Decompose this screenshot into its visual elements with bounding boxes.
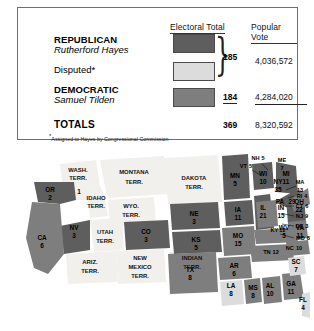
map-label-sc-name: SC xyxy=(292,258,301,265)
map-label-mn-name: MN xyxy=(230,172,240,179)
map-label-nh: NH5 xyxy=(251,155,264,161)
map-label-mi-name: MI xyxy=(282,170,289,177)
map-label-utah-terr-1: UTAH xyxy=(97,229,113,235)
map-label-nm-terr-1: NEW xyxy=(133,255,147,261)
map-label-de: DE3 xyxy=(296,223,309,229)
state-ia xyxy=(224,200,254,226)
column-header-popular-vote: Popular Vote xyxy=(251,22,297,44)
map-label-utah-terr-2: TERR. xyxy=(96,238,114,244)
map-label-vt-name: VT xyxy=(240,163,248,169)
map-label-wi-name: WI xyxy=(259,170,267,177)
map-label-ny-name: NY xyxy=(274,178,284,185)
map-label-ks-name: KS xyxy=(192,236,202,243)
map-label-nj-name: NJ xyxy=(296,213,303,219)
map-label-la-name: LA xyxy=(227,282,236,289)
electoral-value-democratic: 184 xyxy=(223,92,237,104)
electoral-value-republican: 185 xyxy=(223,52,237,62)
map-label-in-name: IN xyxy=(278,204,285,211)
map-label-ky-name: KY xyxy=(270,227,278,233)
map-label-me-votes: 7 xyxy=(280,165,283,171)
map-label-md-votes: 8 xyxy=(307,235,310,241)
popular-value-republican: 4,036,572 xyxy=(255,56,293,66)
map-label-ne-name: NE xyxy=(190,210,200,217)
map-label-la-votes: 8 xyxy=(229,290,233,297)
map-label-md-name: MD xyxy=(296,235,305,241)
swatch-republican xyxy=(173,34,215,53)
map-label-ma-name: MA xyxy=(296,179,305,185)
map-label-md: MD8 xyxy=(296,235,310,241)
popular-value-total: 8,320,592 xyxy=(255,120,293,130)
map-label-ct-name: CT xyxy=(296,203,304,209)
map-label-co-name: CO xyxy=(141,228,151,235)
map-label-me-name: ME xyxy=(278,157,287,163)
state-or xyxy=(34,182,76,204)
map-label-sc-votes: 7 xyxy=(294,266,298,273)
map-label-nj-votes: 9 xyxy=(305,213,308,219)
map-label-co-votes: 3 xyxy=(144,236,148,243)
map-label-ct-votes: 6 xyxy=(305,203,308,209)
map-label-wash-terr-2: TERR. xyxy=(69,175,87,181)
map-label-ny-votes: 35 xyxy=(274,186,282,193)
electoral-value-total: 369 xyxy=(223,120,237,130)
map-label-or-votes: 2 xyxy=(48,194,52,201)
swatch-democratic xyxy=(173,88,215,107)
map-label-dakota-terr-2: TERR. xyxy=(185,184,203,190)
map-label-nm-terr-3: TERR. xyxy=(131,273,149,279)
footnote: *Assigned to Hayes by Congressional Comm… xyxy=(49,133,169,142)
territory-montana xyxy=(100,156,168,198)
map-label-wyo-terr-1: WYO. xyxy=(123,203,139,209)
swatch-disputed xyxy=(173,62,215,81)
map-label-montana-terr-1: MONTANA xyxy=(119,169,149,175)
map-label-il-name: IL xyxy=(260,204,266,211)
results-table-card: Electoral Total Popular Vote REPUBLICAN … xyxy=(17,7,298,140)
map-label-ga-votes: 11 xyxy=(288,288,295,295)
territory-utah xyxy=(90,218,124,252)
map-label-ga-name: GA xyxy=(286,280,296,287)
map-label-tn-name: TN xyxy=(263,249,270,255)
map-label-nh-name: NH xyxy=(251,155,259,161)
map-label-nh-votes: 5 xyxy=(261,155,264,161)
map-label-ne-votes: 3 xyxy=(192,218,196,225)
state-ms xyxy=(244,278,262,304)
map-label-nc-votes: 10 xyxy=(296,245,302,251)
map-label-tn-votes: 12 xyxy=(273,249,279,255)
map-label-ms-name: MS xyxy=(248,284,258,291)
map-label-ca-name: CA xyxy=(37,234,47,241)
map-label-unnumbered-1: 1 xyxy=(77,188,81,195)
map-label-de-votes: 3 xyxy=(305,223,308,229)
map-label-ia-name: IA xyxy=(235,206,242,213)
map-label-wash-terr-1: WASH. xyxy=(68,167,88,173)
map-label-in-votes: 15 xyxy=(277,212,285,219)
map-label-fl-name: FL xyxy=(299,296,307,303)
map-label-ariz-terr-1: ARIZ. xyxy=(82,259,98,265)
map-label-ks-votes: 5 xyxy=(194,244,198,251)
map-label-ariz-terr-2: TERR. xyxy=(81,268,99,274)
state-co xyxy=(124,220,170,250)
map-label-or-name: OR xyxy=(45,186,55,193)
row-label-disputed: Disputed* xyxy=(54,64,95,75)
map-label-montana-terr-2: TERR. xyxy=(125,179,143,185)
map-label-indian-terr-2: TERR. xyxy=(183,264,201,270)
map-label-ms-votes: 8 xyxy=(251,292,255,299)
popular-value-democratic: 4,284,020 xyxy=(255,92,307,105)
map-label-tx-votes: 8 xyxy=(188,274,192,281)
map-label-mi-votes: 11 xyxy=(283,178,290,185)
map-label-nj: NJ9 xyxy=(296,213,308,219)
map-label-pa-name: PA xyxy=(276,198,285,205)
map-label-ar-name: AR xyxy=(229,262,239,269)
candidate-name-republican: Rutherford Hayes xyxy=(54,44,128,55)
map-label-dakota-terr-1: DAKOTA xyxy=(182,175,208,181)
map-label-idaho-terr-1: IDAHO xyxy=(87,195,106,201)
map-label-nv-name: NV xyxy=(70,224,80,231)
map-label-il-votes: 21 xyxy=(259,212,267,219)
map-label-al-votes: 10 xyxy=(266,290,274,297)
map-label-vt: VT5 xyxy=(240,163,252,169)
map-label-indian-terr-1: INDIAN xyxy=(182,255,202,261)
map-label-de-name: DE xyxy=(296,223,304,229)
brace-grouping-icon: } xyxy=(215,34,221,79)
map-label-mo-votes: 15 xyxy=(234,240,242,247)
election-map-figure: Electoral Total Popular Vote REPUBLICAN … xyxy=(0,0,314,331)
map-label-idaho-terr-2: TERR. xyxy=(87,203,105,209)
map-label-fl-votes: 4 xyxy=(301,304,305,311)
map-label-vt-votes: 5 xyxy=(249,163,252,169)
